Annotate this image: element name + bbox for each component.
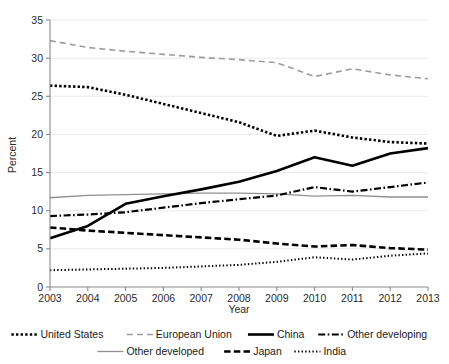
figure-background: [0, 0, 449, 364]
legend-label: India: [323, 345, 346, 357]
x-tick-label: 2007: [190, 292, 214, 304]
y-tick-label: 30: [31, 52, 43, 64]
chart-svg-canvas: 05101520253035 2003200420052006200720082…: [0, 0, 449, 364]
y-tick-label: 5: [37, 242, 43, 254]
x-tick-label: 2013: [416, 292, 440, 304]
y-axis-title: Percent: [6, 137, 18, 173]
legend-label: United States: [40, 328, 103, 340]
x-tick-label: 2004: [76, 292, 100, 304]
x-axis-title: Year: [228, 303, 250, 315]
x-tick-label: 2009: [265, 292, 289, 304]
legend-label: European Union: [156, 328, 232, 340]
y-tick-label: 35: [31, 14, 43, 26]
legend-label: Japan: [253, 345, 282, 357]
y-tick-label: 15: [31, 166, 43, 178]
y-tick-label: 10: [31, 204, 43, 216]
y-tick-label: 20: [31, 128, 43, 140]
x-tick-label: 2012: [379, 292, 403, 304]
x-tick-label: 2010: [303, 292, 327, 304]
y-tick-label: 25: [31, 90, 43, 102]
line-chart-figure: 05101520253035 2003200420052006200720082…: [0, 0, 449, 364]
legend-label: Other developing: [347, 328, 427, 340]
x-tick-label: 2006: [152, 292, 176, 304]
x-tick-label: 2005: [114, 292, 138, 304]
x-tick-label: 2011: [341, 292, 364, 304]
legend-label: Other developed: [126, 345, 204, 357]
legend-label: China: [277, 328, 305, 340]
x-tick-label: 2008: [227, 292, 251, 304]
x-tick-label: 2003: [38, 292, 62, 304]
